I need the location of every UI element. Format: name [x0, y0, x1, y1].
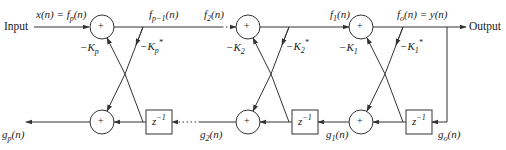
input-label: Input: [4, 21, 28, 33]
label-neg-k2: −K2: [226, 42, 245, 53]
label-neg-kp: −Kp: [80, 42, 99, 53]
cross-2-down: [253, 74, 271, 111]
delay-label-2: z−1: [298, 116, 312, 127]
cross-p-from-bottom: [125, 74, 143, 122]
label-f1: f1(n): [330, 9, 350, 20]
cross-2-from-bottom: [271, 74, 289, 122]
label-f2: f2(n): [204, 9, 224, 20]
label-neg-k1-star: −K1*: [400, 41, 423, 52]
label-neg-k2-star: −K2*: [286, 41, 309, 52]
plus-top-p: +: [98, 21, 104, 31]
label-go: go(n): [438, 129, 460, 140]
lattice-diagram: [0, 0, 506, 150]
delay-label-1: z−1: [412, 116, 426, 127]
plus-bottom-2: +: [244, 116, 250, 126]
label-g2: g2(n): [200, 129, 222, 140]
output-label: Output: [469, 21, 501, 33]
cross-1-up: [367, 38, 385, 74]
cross-p-down: [107, 74, 125, 111]
label-x-fp: x(n) = fp(n): [36, 9, 87, 20]
plus-top-1: +: [357, 21, 363, 31]
plus-bottom-p: +: [98, 116, 104, 126]
label-fo-y: fo(n) = y(n): [397, 9, 448, 20]
cross-1-from-bottom: [385, 74, 403, 122]
label-gp: gp(n): [2, 129, 24, 140]
label-g1: g1(n): [326, 129, 348, 140]
label-neg-k1: −K1: [339, 42, 358, 53]
delay-label-p: z−1: [152, 116, 166, 127]
plus-bottom-1: +: [357, 116, 363, 126]
cross-1-down: [367, 74, 385, 111]
label-fp-1: fp−1(n): [149, 9, 178, 20]
label-neg-kp-star: −Kp*: [140, 41, 163, 52]
cross-p-up: [107, 38, 125, 74]
cross-2-up: [253, 38, 271, 74]
plus-top-2: +: [244, 21, 250, 31]
